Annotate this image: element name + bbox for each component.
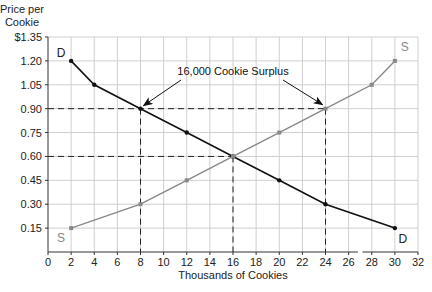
y-tick-label: 0.30 [21, 198, 42, 210]
supply-point [277, 131, 281, 135]
supply-point [231, 154, 235, 158]
chart-canvas: 024681012141618202224262830320.150.300.4… [0, 0, 432, 292]
x-tick-label: 6 [114, 256, 120, 268]
x-tick-label: 0 [45, 256, 51, 268]
supply-point [370, 83, 374, 87]
y-tick-label: 0.60 [21, 150, 42, 162]
x-tick-label: 8 [137, 256, 143, 268]
demand-point [138, 106, 142, 110]
demand-label-bottom: D [399, 232, 408, 246]
x-tick-label: 10 [158, 256, 170, 268]
supply-point [139, 202, 143, 206]
supply-point [324, 107, 328, 111]
x-tick-label: 22 [296, 256, 308, 268]
demand-point [92, 83, 96, 87]
supply-point [69, 226, 73, 230]
x-tick-label: 12 [181, 256, 193, 268]
y-tick-label: 0.90 [21, 103, 42, 115]
y-tick-label: 1.05 [21, 79, 42, 91]
y-axis-label-line2: Cookie [5, 16, 39, 28]
x-tick-label: 24 [319, 256, 331, 268]
demand-point [393, 226, 397, 230]
x-tick-label: 28 [366, 256, 378, 268]
arrow-to-demand-point [144, 80, 182, 106]
supply-point [393, 59, 397, 63]
supply-label-top: S [401, 40, 409, 54]
demand-point [323, 202, 327, 206]
x-tick-label: 20 [273, 256, 285, 268]
y-tick-label: 0.45 [21, 174, 42, 186]
supply-demand-chart: 024681012141618202224262830320.150.300.4… [0, 0, 432, 292]
x-tick-label: 26 [343, 256, 355, 268]
demand-label-top: D [57, 46, 66, 60]
supply-point [185, 178, 189, 182]
axis-labels: Price per Cookie Thousands of Cookies [0, 3, 288, 281]
demand-point [277, 178, 281, 182]
demand-point [185, 130, 189, 134]
supply-label-bottom: S [57, 231, 65, 245]
x-tick-label: 4 [91, 256, 97, 268]
y-tick-label: 1.20 [21, 55, 42, 67]
y-tick-label: 0.75 [21, 127, 42, 139]
x-tick-label: 14 [204, 256, 216, 268]
demand-point [69, 59, 73, 63]
x-axis-label: Thousands of Cookies [178, 269, 288, 281]
annotation-text: 16,000 Cookie Surplus [177, 65, 289, 77]
x-tick-label: 18 [250, 256, 262, 268]
y-tick-label: 0.15 [21, 222, 42, 234]
x-tick-label: 32 [412, 256, 424, 268]
x-tick-label: 16 [227, 256, 239, 268]
x-tick-label: 30 [389, 256, 401, 268]
x-tick-label: 2 [68, 256, 74, 268]
y-tick-label: $1.35 [14, 31, 42, 43]
y-axis-label-line1: Price per [0, 3, 44, 15]
